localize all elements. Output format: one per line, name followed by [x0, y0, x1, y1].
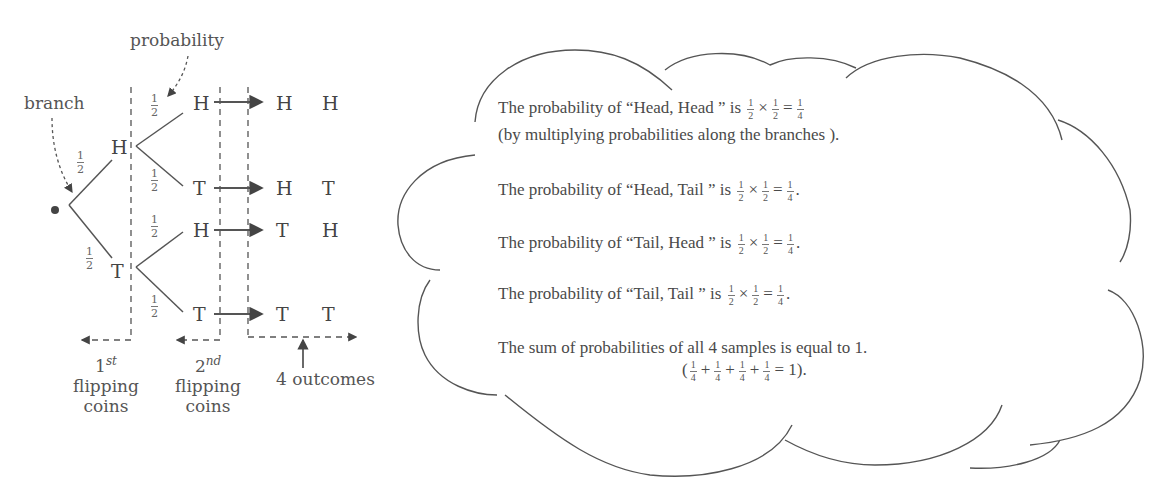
outcome-3-second: H	[322, 219, 339, 241]
probability-annotation: probability	[130, 30, 224, 50]
cloud-line-tail-head: The probability of “Tail, Head ” is 12×1…	[498, 233, 800, 256]
level1-prob-tail: 12	[86, 246, 93, 271]
cloud-line-sum-equation: (14+14+14+14= 1).	[682, 360, 809, 383]
outcome-2-first: H	[276, 177, 293, 199]
level2-node-1: H	[193, 92, 210, 114]
level1-prob-head: 12	[77, 150, 84, 175]
caption-outcomes: 4 outcomes	[276, 369, 375, 389]
cloud-line-sum: The sum of probabilities of all 4 sample…	[498, 338, 867, 358]
level2-node-3: H	[193, 219, 210, 241]
branch-pointer-arrow	[52, 118, 72, 192]
root-node-dot	[51, 206, 59, 214]
level2-prob-1: 12	[151, 93, 158, 118]
outcome-2-second: T	[322, 177, 335, 199]
level2-prob-2: 12	[151, 168, 158, 193]
level1-node-head: H	[111, 136, 128, 158]
branch-annotation: branch	[24, 93, 85, 113]
outcome-4-second: T	[322, 303, 335, 325]
outcome-1-first: H	[276, 92, 293, 114]
level2-node-2: T	[193, 177, 206, 199]
outcome-1-second: H	[322, 92, 339, 114]
outcome-3-first: T	[276, 219, 289, 241]
cloud-line-head-head: The probability of “Head, Head ” is 12×1…	[498, 98, 806, 121]
caption-second-flip: 2nd flipping coins	[166, 351, 250, 416]
cloud-line-head-tail: The probability of “Head, Tail ” is 12×1…	[498, 180, 800, 203]
cloud-line-explanation: (by multiplying probabilities along the …	[498, 125, 839, 145]
cloud-line-tail-tail: The probability of “Tail, Tail ” is 12×1…	[498, 284, 790, 307]
level2-node-4: T	[193, 303, 206, 325]
level1-node-tail: T	[111, 260, 124, 282]
stage-separators	[82, 87, 356, 340]
level2-prob-4: 12	[151, 294, 158, 319]
outcome-4-first: T	[276, 303, 289, 325]
probability-pointer-arrow	[168, 56, 188, 96]
level2-prob-3: 12	[151, 214, 158, 239]
caption-first-flip: 1st flipping coins	[64, 351, 148, 416]
outcome-arrows	[214, 102, 262, 314]
